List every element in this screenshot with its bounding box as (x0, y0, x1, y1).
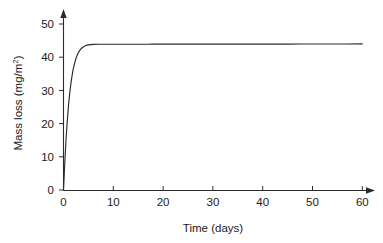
chart-figure: 0 10 20 30 40 50 0 10 20 30 40 50 60 (0, 0, 383, 243)
x-tick-label-20: 20 (157, 196, 170, 208)
y-axis-title-base: Mass loss (mg/m (12, 64, 24, 151)
x-axis-ticks (64, 186, 363, 191)
x-tick-label-50: 50 (306, 196, 319, 208)
chart-canvas: 0 10 20 30 40 50 0 10 20 30 40 50 60 (0, 0, 383, 243)
x-tick-label-30: 30 (207, 196, 220, 208)
x-axis-title: Time (days) (183, 222, 243, 234)
y-tick-label-20: 20 (41, 118, 54, 130)
y-axis-title-close: ) (12, 55, 24, 59)
y-tick-label-40: 40 (41, 51, 54, 63)
y-axis-arrow-icon (60, 9, 66, 18)
y-tick-label-30: 30 (41, 85, 54, 97)
y-tick-label-10: 10 (41, 151, 54, 163)
y-axis-ticks (59, 24, 64, 190)
y-axis-title: Mass loss (mg/m2) (11, 55, 24, 150)
y-axis-tick-labels: 0 10 20 30 40 50 (41, 18, 54, 196)
mass-loss-curve (64, 44, 363, 190)
y-tick-label-50: 50 (41, 18, 54, 30)
x-tick-label-60: 60 (356, 196, 369, 208)
x-tick-label-40: 40 (256, 196, 269, 208)
x-axis-tick-labels: 0 10 20 30 40 50 60 (60, 196, 368, 208)
x-tick-label-10: 10 (107, 196, 120, 208)
x-tick-label-0: 0 (60, 196, 66, 208)
x-axis-arrow-icon (366, 187, 375, 193)
y-tick-label-0: 0 (48, 184, 54, 196)
y-axis-title-group: Mass loss (mg/m2) (11, 55, 24, 150)
